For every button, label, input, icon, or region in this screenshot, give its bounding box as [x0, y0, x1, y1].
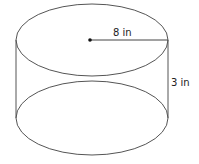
height-label: 3 in: [171, 78, 190, 88]
cylinder-diagram: [0, 0, 199, 164]
cylinder-bottom-face: [16, 81, 168, 155]
center-point: [88, 38, 92, 42]
radius-label: 8 in: [113, 28, 132, 38]
